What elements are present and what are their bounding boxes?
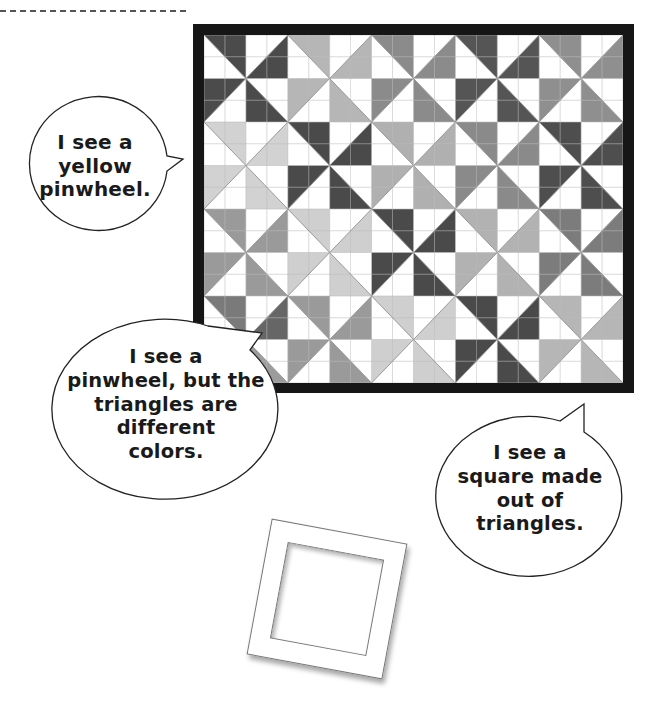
- quilt-grid: [204, 35, 623, 383]
- bubble-line: pinwheel.: [30, 178, 160, 202]
- bubble-line: square made: [440, 465, 620, 489]
- empty-photo-frame: [247, 519, 408, 680]
- bubble-line: different: [60, 416, 272, 440]
- bubble-line: colors.: [60, 440, 272, 464]
- bubble-line: triangles are: [60, 393, 272, 417]
- dashed-divider: [0, 10, 186, 12]
- bubble-line: out of: [440, 489, 620, 513]
- bubble-text-square-triangles: I see a square made out of triangles.: [440, 441, 620, 536]
- pinwheel-quilt: [204, 35, 623, 383]
- bubble-text-different-colors: I see a pinwheel, but the triangles are …: [60, 345, 272, 464]
- bubble-line: yellow: [30, 155, 160, 179]
- bubble-text-yellow-pinwheel: I see a yellow pinwheel.: [30, 131, 160, 202]
- bubble-line: I see a: [440, 441, 620, 465]
- quilt-border: [193, 24, 634, 393]
- bubble-line: I see a: [60, 345, 272, 369]
- bubble-line: pinwheel, but the: [60, 369, 272, 393]
- bubble-line: triangles.: [440, 512, 620, 536]
- photo-frame-window: [270, 542, 384, 656]
- bubble-line: I see a: [30, 131, 160, 155]
